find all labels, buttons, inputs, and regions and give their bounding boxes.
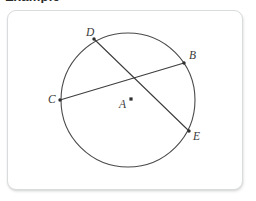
point-label-e: E xyxy=(192,130,200,142)
chord-CB xyxy=(60,63,184,100)
point-label-d: D xyxy=(85,26,95,38)
point-marker-b xyxy=(182,61,185,64)
cropped-heading-text: Example xyxy=(0,0,256,3)
circle-diagram: DBCEA xyxy=(8,11,243,190)
center-point-label: A xyxy=(118,98,127,110)
point-label-b: B xyxy=(189,49,196,61)
point-marker-e xyxy=(187,129,190,132)
center-point-marker xyxy=(129,97,132,100)
cropped-heading: Example xyxy=(0,0,256,3)
point-marker-c xyxy=(58,98,61,101)
point-label-c: C xyxy=(48,93,56,105)
figure-card: DBCEA xyxy=(7,10,243,190)
circle-outline xyxy=(61,33,195,167)
chord-DE xyxy=(94,39,189,131)
